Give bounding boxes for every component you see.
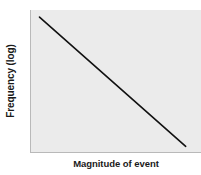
chart-figure: Frequency (log) Magnitude of event: [0, 0, 201, 175]
line-series-svg: [31, 10, 201, 152]
plot-area: [31, 10, 201, 152]
y-axis-label: Frequency (log): [0, 10, 20, 152]
trend-line: [40, 17, 186, 146]
x-axis-label: Magnitude of event: [31, 158, 201, 169]
x-axis-spine: [30, 152, 201, 153]
